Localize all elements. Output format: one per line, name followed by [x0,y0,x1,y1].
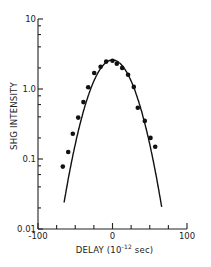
data-point [98,64,103,69]
shg-autocorrelation-chart: 101.00.10.01-1000100 DELAY (10-12 sec)SH… [0,0,211,267]
data-point [143,119,148,124]
axes: 101.00.10.01-1000100 [17,14,195,241]
data-point [81,100,86,105]
data-point [76,115,81,120]
data-point [115,61,120,66]
x-tick-label: 100 [179,231,195,241]
data-point [148,136,153,141]
y-axis-title: SHG INTENSITY [9,82,19,150]
data-point [136,105,141,110]
x-tick-label: 0 [110,231,115,241]
data-point [71,131,76,136]
y-tick-label: 10 [25,14,36,24]
data-point [104,59,109,64]
data-point [126,72,131,77]
y-tick-label: 0.1 [22,154,36,164]
data-point [120,66,125,71]
data-point [61,164,66,169]
gaussian-fit-line [64,60,162,207]
y-tick-label: 1.0 [22,84,36,94]
data-point [153,144,158,149]
x-axis-title: DELAY (10-12 sec) [76,243,154,255]
data-point [86,85,91,90]
data-point [132,85,137,90]
data-point [66,150,71,155]
data-point [110,58,115,63]
fit-curve [64,60,162,207]
x-tick-label: -100 [28,231,47,241]
data-point [92,71,97,76]
